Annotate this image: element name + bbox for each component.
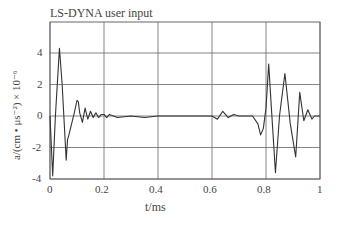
x-tick-label: 1 [317,183,323,195]
data-series-line [50,48,320,176]
x-tick-label: 0 [47,183,53,195]
x-tick-label: 0.2 [95,183,109,195]
y-axis-label: a/(cm • μs⁻²) × 10⁻⁶ [10,70,23,160]
y-tick-label: 4 [37,46,43,58]
plot-frame [50,22,320,179]
x-tick-label: 0.8 [257,183,271,195]
y-tick-label: -4 [32,172,41,184]
y-tick-label: -2 [32,141,41,153]
y-tick-label: 0 [37,109,43,121]
x-axis-label: t/ms [145,200,166,215]
x-tick-label: 0.4 [149,183,163,195]
x-tick-label: 0.6 [203,183,217,195]
y-tick-label: 2 [37,78,43,90]
